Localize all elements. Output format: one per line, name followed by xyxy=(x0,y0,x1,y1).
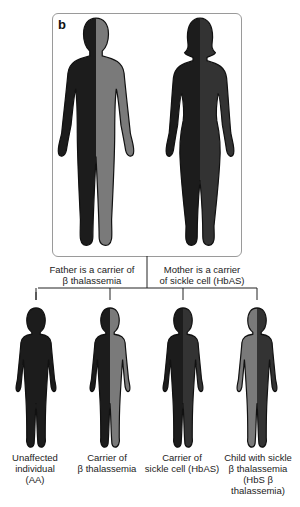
child-label-line: Carrier of xyxy=(72,452,142,463)
parent-figure-father xyxy=(55,15,137,251)
father-label-line: Father is a carrier of xyxy=(42,264,142,275)
child-label-line: (AA) xyxy=(5,474,65,485)
mother-label: Mother is a carrier of sickle cell (HbAS… xyxy=(152,264,252,286)
child-figure-sickle-beta xyxy=(234,306,280,452)
father-label-line: β thalassemia xyxy=(42,275,142,286)
child-label-carrier-sickle: Carrier of sickle cell (HbAS) xyxy=(142,452,222,474)
child-figure-carrier-sickle xyxy=(160,306,206,452)
child-label-line: Carrier of xyxy=(142,452,222,463)
child-label-line: (HbS β xyxy=(218,474,298,485)
child-figure-unaffected xyxy=(13,306,59,452)
child-label-unaffected: Unaffected individual (AA) xyxy=(5,452,65,485)
mother-label-line: Mother is a carrier xyxy=(152,264,252,275)
child-label-line: Child with sickle xyxy=(218,452,298,463)
child-label-carrier-beta: Carrier of β thalassemia xyxy=(72,452,142,474)
child-label-line: Unaffected xyxy=(5,452,65,463)
father-label: Father is a carrier of β thalassemia xyxy=(42,264,142,286)
parent-figure-mother xyxy=(163,15,237,251)
child-label-line: sickle cell (HbAS) xyxy=(142,463,222,474)
mother-label-line: of sickle cell (HbAS) xyxy=(152,275,252,286)
child-label-sickle-beta: Child with sickle β thalassemia (HbS β t… xyxy=(218,452,298,496)
child-label-line: individual xyxy=(5,463,65,474)
child-label-line: thalassemia) xyxy=(218,485,298,496)
child-label-line: β thalassemia xyxy=(218,463,298,474)
pedigree-diagram xyxy=(0,0,300,507)
child-figure-carrier-beta xyxy=(87,306,133,452)
child-label-line: β thalassemia xyxy=(72,463,142,474)
